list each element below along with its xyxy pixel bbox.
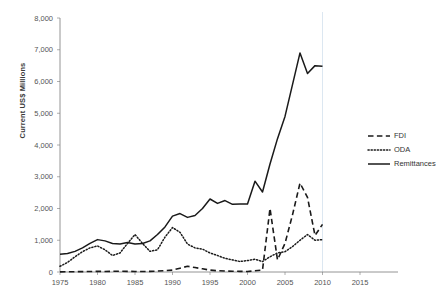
x-axis-ticks: 197519801985199019952000200520102015 bbox=[52, 272, 369, 287]
y-axis-ticks: 01,0002,0003,0004,0005,0006,0007,0008,00… bbox=[34, 14, 60, 277]
x-tick-label: 2015 bbox=[352, 278, 369, 287]
y-tick-label: 8,000 bbox=[34, 14, 53, 23]
chart-legend: FDIODARemittances bbox=[368, 131, 436, 168]
series-line-fdi bbox=[60, 183, 323, 272]
y-tick-label: 0 bbox=[49, 268, 53, 277]
chart-container: Current US$ Millions 01,0002,0003,0004,0… bbox=[0, 0, 440, 302]
x-tick-label: 1995 bbox=[202, 278, 219, 287]
series-line-remittances bbox=[60, 53, 323, 254]
legend-label-remittances: Remittances bbox=[394, 159, 436, 168]
x-tick-label: 2000 bbox=[239, 278, 256, 287]
y-tick-label: 1,000 bbox=[34, 236, 53, 245]
y-tick-label: 5,000 bbox=[34, 109, 53, 118]
legend-label-fdi: FDI bbox=[394, 131, 406, 140]
y-tick-label: 2,000 bbox=[34, 204, 53, 213]
x-tick-label: 2005 bbox=[277, 278, 294, 287]
line-chart: 01,0002,0003,0004,0005,0006,0007,0008,00… bbox=[0, 0, 440, 302]
x-tick-label: 1980 bbox=[89, 278, 106, 287]
x-tick-label: 2010 bbox=[314, 278, 331, 287]
x-tick-label: 1985 bbox=[127, 278, 144, 287]
data-series-group bbox=[60, 53, 323, 272]
y-tick-label: 7,000 bbox=[34, 45, 53, 54]
legend-label-oda: ODA bbox=[394, 145, 410, 154]
y-tick-label: 4,000 bbox=[34, 141, 53, 150]
y-tick-label: 6,000 bbox=[34, 77, 53, 86]
y-tick-label: 3,000 bbox=[34, 172, 53, 181]
x-tick-label: 1975 bbox=[52, 278, 69, 287]
x-tick-label: 1990 bbox=[164, 278, 181, 287]
